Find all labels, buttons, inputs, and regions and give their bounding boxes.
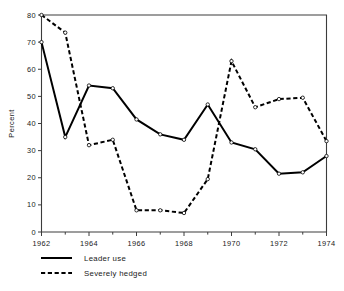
data-point-marker	[277, 172, 280, 175]
data-point-marker	[254, 106, 257, 109]
data-point-marker	[301, 171, 304, 174]
data-point-marker	[135, 118, 138, 121]
x-tick-label: 1974	[318, 239, 336, 248]
data-point-marker	[111, 138, 114, 141]
x-tick-label: 1970	[223, 239, 241, 248]
data-point-marker	[40, 13, 43, 16]
x-tick-label: 1966	[128, 239, 146, 248]
data-point-marker	[325, 154, 328, 157]
data-point-marker	[230, 59, 233, 62]
data-point-marker	[206, 103, 209, 106]
line-chart: 01020304050607080Percent1962196419661968…	[0, 0, 344, 291]
data-point-marker	[111, 87, 114, 90]
x-tick-label: 1972	[270, 239, 288, 248]
legend-label: Severely hedged	[84, 269, 147, 278]
data-point-marker	[64, 31, 67, 34]
series-line-solid	[42, 42, 327, 174]
data-point-marker	[64, 135, 67, 138]
data-point-marker	[40, 40, 43, 43]
data-point-marker	[206, 177, 209, 180]
data-point-marker	[159, 209, 162, 212]
data-point-marker	[135, 209, 138, 212]
y-tick-label: 40	[27, 119, 36, 128]
data-point-marker	[254, 148, 257, 151]
data-point-marker	[159, 133, 162, 136]
data-point-marker	[230, 141, 233, 144]
y-tick-label: 70	[27, 38, 36, 47]
legend-label: Leader use	[84, 254, 126, 263]
y-tick-label: 60	[27, 65, 36, 74]
data-point-marker	[182, 211, 185, 214]
series-line-dashed	[42, 15, 327, 213]
data-point-marker	[182, 138, 185, 141]
data-point-marker	[87, 84, 90, 87]
y-tick-label: 30	[27, 146, 36, 155]
x-tick-label: 1964	[80, 239, 98, 248]
figure-container: 01020304050607080Percent1962196419661968…	[0, 0, 344, 291]
x-tick-label: 1968	[175, 239, 193, 248]
data-point-marker	[277, 97, 280, 100]
y-tick-label: 10	[27, 200, 36, 209]
y-tick-label: 50	[27, 92, 36, 101]
data-point-marker	[301, 96, 304, 99]
y-tick-label: 20	[27, 173, 36, 182]
data-point-marker	[87, 144, 90, 147]
x-tick-label: 1962	[33, 239, 51, 248]
y-tick-label: 80	[27, 11, 36, 20]
y-axis-title: Percent	[7, 109, 16, 137]
data-point-marker	[325, 139, 328, 142]
y-tick-label: 0	[32, 228, 36, 237]
